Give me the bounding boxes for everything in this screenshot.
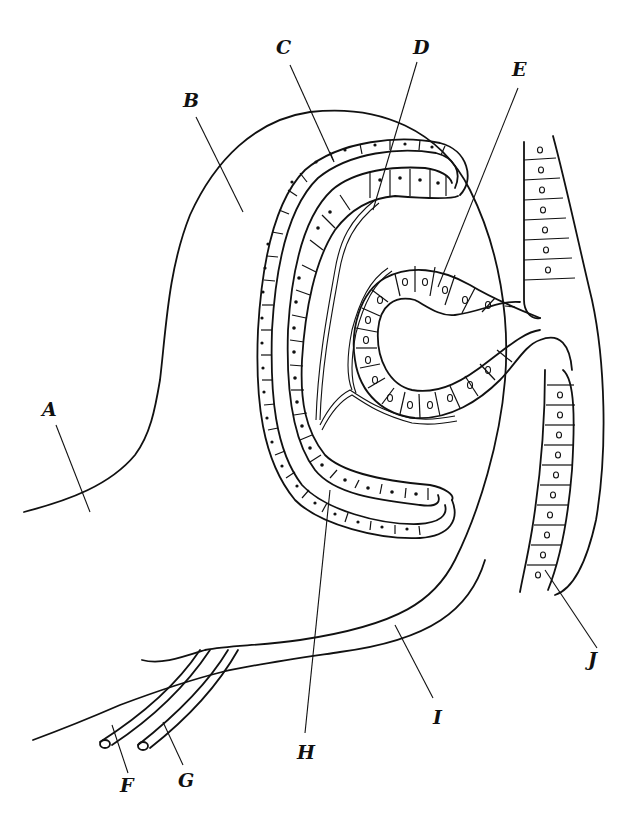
- label-b: B: [183, 91, 199, 110]
- diagram-canvas: A B C D E F G H I J: [0, 0, 632, 815]
- right-epithelium-j: [520, 136, 604, 595]
- label-h: H: [297, 743, 315, 762]
- tube-f: [100, 650, 210, 748]
- label-c: C: [276, 38, 291, 57]
- outer-contour-a: [24, 111, 506, 662]
- leader-i: [395, 625, 433, 698]
- diagram-drawing: [0, 0, 632, 815]
- right-epithelium-nuclei: [536, 147, 563, 578]
- horseshoe-epithelium: [257, 140, 467, 539]
- label-e: E: [512, 60, 526, 79]
- leader-c: [290, 65, 333, 160]
- label-a: A: [42, 400, 57, 419]
- label-f: F: [120, 776, 134, 795]
- right-epithelium-cells: [524, 158, 575, 565]
- leader-lines: [56, 62, 597, 773]
- leader-f: [112, 725, 128, 773]
- label-g: G: [178, 771, 194, 790]
- leader-e: [438, 88, 518, 287]
- leader-a: [56, 425, 90, 512]
- duct-lower-boundary: [33, 560, 485, 740]
- leader-b: [196, 117, 243, 212]
- leader-h: [305, 490, 330, 733]
- loop-epithelium-e: [354, 266, 572, 418]
- label-i: I: [433, 708, 442, 727]
- leader-j: [545, 570, 597, 648]
- label-d: D: [413, 38, 429, 57]
- label-j: J: [588, 650, 597, 669]
